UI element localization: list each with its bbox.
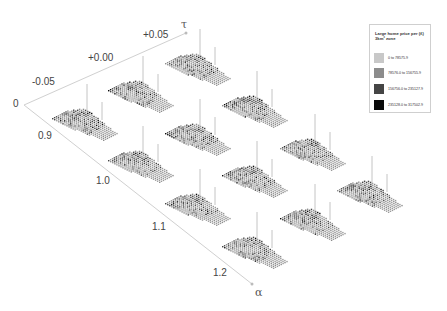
legend-entry-2: 78576.0 to 156755.9 [374,68,430,78]
legend-swatch-4 [374,100,384,110]
legend-swatch-3 [374,84,384,94]
legend: Large home price per (£) 3km² zone 0 to … [369,24,431,113]
panel-alpha-1.1-tau-+0.00 [222,141,288,198]
alpha-tick-4: 1.2 [213,267,227,278]
tau-axis-title: τ [181,18,187,31]
panel-alpha-0.9-tau--0.05 [52,84,118,141]
alpha-axis-title: α [255,286,262,299]
alpha-tick-3: 1.1 [152,221,166,232]
alpha-tick-2: 1.0 [96,175,110,186]
tau-axis-line [24,33,186,105]
panel-group [52,29,403,269]
tau-axis-end [185,32,188,35]
panel-alpha-1.0-tau-+0.00 [165,99,231,156]
alpha-axis-end [251,283,254,286]
legend-swatch-1 [374,53,384,63]
alpha-axis-line [24,105,252,284]
panel-alpha-1.0-tau--0.05 [108,126,174,183]
panel-alpha-1.2-tau--0.05 [222,212,288,269]
legend-swatch-2 [374,68,384,78]
legend-title: Large home price per (£) 3km² zone [375,31,430,41]
panel-alpha-1.2-tau-+0.00 [280,184,346,241]
panel-alpha-0.9-tau-+0.00 [108,56,174,113]
panel-alpha-1.1-tau--0.05 [165,169,231,226]
legend-label-2: 78576.0 to 156755.9 [388,71,421,75]
legend-label-3: 156756.0 to 235127.9 [388,87,423,91]
legend-entry-3: 156756.0 to 235127.9 [374,84,430,94]
legend-entry-1: 0 to 78575.9 [374,53,430,63]
panel-alpha-1.1-tau-+0.05 [280,114,346,171]
alpha-tick-1: 0.9 [38,130,52,141]
tau-tick-2: +0.00 [88,52,113,63]
legend-label-4: 235128.0 to 317502.9 [388,103,423,107]
panel-alpha-1.2-tau-+0.05 [337,156,403,213]
legend-label-1: 0 to 78575.9 [388,56,408,60]
panel-alpha-1.0-tau-+0.05 [222,71,288,128]
tau-tick-3: +0.05 [143,29,168,40]
legend-entry-4: 235128.0 to 317502.9 [374,100,430,110]
origin-label: 0 [13,98,19,109]
tau-tick-1: -0.05 [32,76,55,87]
